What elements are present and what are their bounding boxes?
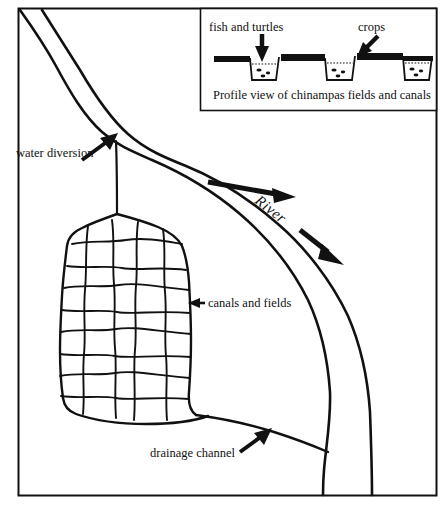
inset-caption: Profile view of chinampas fields and can… [213,88,431,103]
label-crops: crops [358,20,385,35]
label-fish-and-turtles: fish and turtles [209,20,283,35]
diagram-canvas: water diversion canals and fields draina… [0,0,444,518]
label-water-diversion: water diversion [16,146,93,161]
water-diversion-channel [116,141,117,214]
label-drainage-channel: drainage channel [150,446,235,461]
map-illustration [0,0,444,518]
label-canals-and-fields: canals and fields [208,296,291,311]
